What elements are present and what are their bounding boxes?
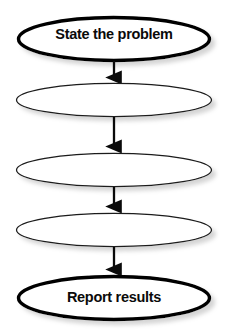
flowchart-diagram: State the problem Report results (0, 0, 228, 330)
ellipse-shape-3[interactable] (17, 153, 212, 186)
node-blank-3[interactable] (17, 153, 212, 186)
node-blank-4[interactable] (17, 213, 212, 246)
node-blank-2[interactable] (17, 83, 212, 116)
ellipse-shape-1[interactable] (19, 18, 210, 61)
ellipse-shape-2[interactable] (17, 83, 212, 116)
node-report-results[interactable] (19, 277, 210, 320)
ellipse-shape-4[interactable] (17, 213, 212, 246)
flowchart-canvas (0, 0, 228, 330)
node-state-the-problem[interactable] (19, 18, 210, 61)
ellipse-shape-5[interactable] (19, 277, 210, 320)
